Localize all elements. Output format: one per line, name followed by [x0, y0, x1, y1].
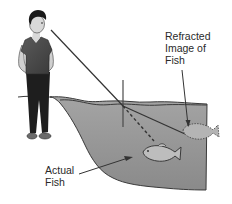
observer-pants [26, 72, 50, 133]
observer-shoe-right [39, 133, 51, 139]
actual-fish-label: Actual Fish [45, 164, 74, 188]
observer-eye [41, 22, 43, 24]
refracted-image-label: Refracted Image of Fish [165, 30, 211, 66]
observer-shoe-left [27, 133, 37, 139]
observer [19, 10, 54, 139]
line-of-sight [51, 30, 123, 106]
